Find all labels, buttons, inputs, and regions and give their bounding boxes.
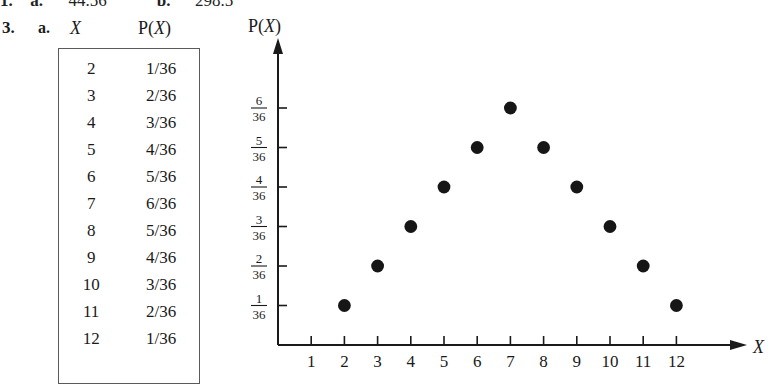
table-cell-probability: 3/36 [123,271,199,298]
table-row: 65/36 [59,163,199,190]
table-cell-probability: 1/36 [123,325,199,352]
data-point [604,220,617,233]
x-tick-label: 9 [573,352,582,371]
y-tick-denominator: 36 [253,267,267,282]
data-point [404,220,417,233]
x-tick-label: 6 [473,352,482,371]
y-tick-numerator: 5 [256,133,263,148]
table-row: 85/36 [59,217,199,244]
table-cell-probability: 6/36 [123,190,199,217]
x-tick-label: 12 [668,352,685,371]
table-cell-x: 4 [59,109,123,136]
table-cell-x: 11 [59,298,123,325]
table-cell-probability: 4/36 [123,136,199,163]
clipped-answer-a-value: 44.56 [69,0,153,11]
table-row: 121/36 [59,325,199,352]
table-cell-x: 6 [59,163,123,190]
probability-distribution-table: 21/3632/3643/3654/3665/3676/3685/3694/36… [58,48,200,384]
probability-scatter-chart: P(X) X 136236336436536636 12345678910111… [240,8,773,391]
table-row: 112/36 [59,298,199,325]
y-tick-denominator: 36 [253,109,267,124]
table-row: 54/36 [59,136,199,163]
x-axis-ticks: 123456789101112 [307,336,685,371]
x-tick-label: 1 [307,352,316,371]
data-point [504,102,517,115]
table-column-header-x: X [70,18,81,39]
table-cell-x: 10 [59,271,123,298]
x-axis-title: X [752,337,765,357]
table-cell-x: 9 [59,244,123,271]
table-row: 43/36 [59,109,199,136]
table-cell-probability: 1/36 [123,55,199,82]
table-cell-x: 8 [59,217,123,244]
y-tick-numerator: 4 [256,172,263,187]
y-axis-title: P(X) [248,16,281,37]
y-tick-denominator: 36 [253,188,267,203]
table-cell-x: 3 [59,82,123,109]
data-points [338,102,683,312]
table-cell-x: 2 [59,55,123,82]
table-cell-probability: 2/36 [123,82,199,109]
y-tick-numerator: 1 [256,291,263,306]
data-point [371,260,384,273]
data-point [670,299,683,312]
clipped-answer-b-label: b. [157,0,191,11]
data-point [537,141,550,154]
table-body: 21/3632/3643/3654/3665/3676/3685/3694/36… [59,55,199,352]
table-row: 21/36 [59,55,199,82]
y-axis-ticks: 136236336436536636 [251,93,287,322]
clipped-answer-number: 1. [0,0,26,11]
px-suffix: ) [165,18,171,38]
px-variable: X [154,18,165,38]
x-tick-label: 3 [373,352,382,371]
table-cell-probability: 2/36 [123,298,199,325]
problem-number: 3. [2,18,34,38]
clipped-answer-a-label: a. [30,0,64,11]
x-tick-label: 11 [635,352,651,371]
data-point [438,181,451,194]
x-tick-label: 10 [602,352,619,371]
x-tick-label: 7 [506,352,515,371]
y-tick-denominator: 36 [253,228,267,243]
table-cell-probability: 3/36 [123,109,199,136]
data-point [570,181,583,194]
y-tick-numerator: 2 [256,251,263,266]
table-cell-x: 12 [59,325,123,352]
table-row: 32/36 [59,82,199,109]
y-axis-arrowhead [273,38,283,54]
data-point [338,299,351,312]
table-cell-probability: 5/36 [123,217,199,244]
table-column-header-px: P(X) [138,18,171,39]
x-axis-arrowhead [730,340,747,350]
table-cell-x: 5 [59,136,123,163]
y-tick-denominator: 36 [253,307,267,322]
data-point [637,260,650,273]
y-tick-numerator: 3 [256,212,263,227]
table-cell-probability: 5/36 [123,163,199,190]
y-tick-numerator: 6 [256,93,263,108]
x-tick-label: 2 [340,352,349,371]
problem-part-label: a. [38,19,70,37]
x-tick-label: 5 [440,352,449,371]
table-cell-x: 7 [59,190,123,217]
table-row: 76/36 [59,190,199,217]
y-tick-denominator: 36 [253,149,267,164]
x-tick-label: 8 [539,352,548,371]
table-cell-probability: 4/36 [123,244,199,271]
table-row: 94/36 [59,244,199,271]
table-row: 103/36 [59,271,199,298]
data-point [471,141,484,154]
px-prefix: P( [138,18,154,38]
x-tick-label: 4 [407,352,416,371]
problem-header: 3. a. [2,18,70,42]
